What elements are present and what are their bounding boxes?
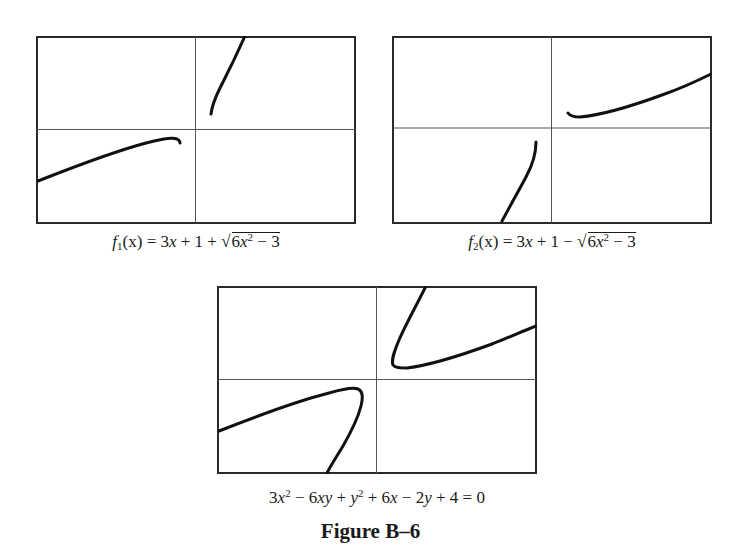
plot-f1: [36, 36, 356, 224]
plot-conic: [217, 286, 537, 474]
graph-f1: [36, 36, 356, 224]
sqrt-sign: √: [221, 232, 230, 251]
radicand: 6x2 − 3: [232, 232, 280, 251]
graph-f2: [392, 36, 712, 224]
sqrt-sign: √: [577, 232, 586, 251]
radicand: 6x2 − 3: [588, 232, 636, 251]
figure-title: Figure B–6: [0, 519, 741, 544]
plot-f2: [392, 36, 712, 224]
caption-f2: f2(x) = 3x + 1 − √6x2 − 3: [392, 232, 712, 252]
caption-f1: f1(x) = 3x + 1 + √6x2 − 3: [36, 232, 356, 252]
graph-conic: [217, 286, 537, 474]
caption-conic: 3x2 − 6xy + y2 + 6x − 2y + 4 = 0: [217, 488, 537, 508]
